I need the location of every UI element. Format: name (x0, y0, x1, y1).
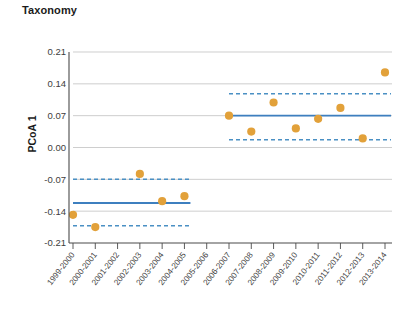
data-point (359, 134, 367, 142)
data-point (292, 124, 300, 132)
gridlines-group (73, 52, 392, 211)
data-points-group (69, 68, 389, 231)
data-point (247, 127, 255, 135)
x-tick-marks-group (73, 243, 385, 249)
y-tick-label: -0.07 (44, 174, 66, 185)
x-tick-labels-group: 1999-20002000-20012001-20022002-20032003… (45, 250, 388, 287)
data-point (336, 104, 344, 112)
y-tick-labels-group: 0.210.140.070.00-0.07-0.14-0.21 (44, 46, 66, 248)
data-point (91, 223, 99, 231)
y-tick-label: -0.14 (44, 206, 66, 217)
data-point (180, 192, 188, 200)
y-tick-label: 0.00 (48, 142, 67, 153)
data-point (136, 170, 144, 178)
data-point (381, 68, 389, 76)
chart-figure: Taxonomy PCoA 1 0.210.140.070.00-0.07-0.… (0, 0, 404, 319)
data-point (225, 112, 233, 120)
y-tick-label: 0.07 (48, 110, 67, 121)
mean-lines-group (73, 116, 391, 203)
data-point (69, 211, 77, 219)
y-tick-label: 0.21 (48, 46, 67, 57)
data-point (314, 115, 322, 123)
y-tick-label: -0.21 (44, 237, 66, 248)
y-tick-label: 0.14 (48, 78, 67, 89)
data-point (158, 197, 166, 205)
data-point (269, 98, 277, 106)
plot-canvas: 0.210.140.070.00-0.07-0.14-0.21 1999-200… (0, 0, 404, 319)
